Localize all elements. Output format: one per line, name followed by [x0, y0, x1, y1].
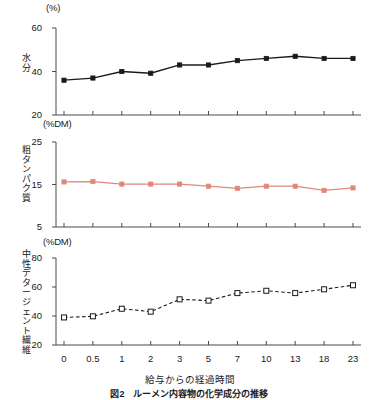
y-tick-label: 40: [20, 310, 42, 321]
data-point-marker: [149, 71, 153, 75]
x-tick-label: 13: [290, 353, 301, 364]
data-point-marker: [120, 69, 124, 73]
data-point-marker: [62, 180, 66, 184]
x-tick-label: 23: [348, 353, 359, 364]
chart-panel-moisture: (%) 水分: [0, 8, 379, 120]
data-point-marker: [148, 309, 153, 314]
data-point-marker: [351, 186, 355, 190]
data-point-marker: [235, 291, 240, 296]
data-point-marker: [322, 188, 326, 192]
x-tick-label: 0: [61, 353, 66, 364]
data-point-marker: [91, 76, 95, 80]
data-point-marker: [206, 298, 211, 303]
plot-area-crude-protein: [0, 122, 379, 240]
data-point-marker: [235, 59, 239, 63]
y-tick-label: 80: [20, 252, 42, 263]
data-point-marker: [62, 315, 67, 320]
x-tick-label: 2: [148, 353, 153, 364]
data-point-marker: [178, 63, 182, 67]
data-point-marker: [62, 78, 66, 82]
y-tick-label: 60: [20, 22, 42, 33]
data-point-marker: [351, 283, 356, 288]
data-point-marker: [177, 297, 182, 302]
x-tick-label: 3: [177, 353, 182, 364]
x-tick-label: 5: [206, 353, 211, 364]
data-point-marker: [119, 306, 124, 311]
data-point-marker: [264, 184, 268, 188]
x-tick-label: 7: [235, 353, 240, 364]
y-tick-label: 60: [20, 281, 42, 292]
y-tick-label: 5: [20, 221, 42, 232]
y-tick-label: 20: [20, 339, 42, 350]
data-point-marker: [149, 182, 153, 186]
plot-area-ndf: [0, 240, 379, 360]
data-point-marker: [206, 63, 210, 67]
y-tick-label: 25: [20, 136, 42, 147]
data-point-marker: [293, 184, 297, 188]
x-axis-title: 給与からの経過時間: [0, 372, 379, 386]
data-point-marker: [90, 314, 95, 319]
chart-panel-crude-protein: (%DM) 粗タンパク質: [0, 122, 379, 240]
data-point-marker: [264, 56, 268, 60]
figure-caption: 図2 ルーメン内容物の化学成分の推移: [0, 387, 379, 400]
data-point-marker: [351, 56, 355, 60]
y-tick-label: 20: [20, 109, 42, 120]
data-point-marker: [91, 179, 95, 183]
data-point-marker: [235, 186, 239, 190]
x-tick-label: 1: [119, 353, 124, 364]
x-tick-label: 10: [261, 353, 272, 364]
data-point-marker: [206, 184, 210, 188]
y-tick-label: 40: [20, 66, 42, 77]
data-point-marker: [322, 56, 326, 60]
x-tick-label: 0.5: [86, 353, 99, 364]
data-point-marker: [293, 54, 297, 58]
series-line: [64, 56, 353, 80]
data-point-marker: [264, 288, 269, 293]
chart-panel-ndf: (%DM) 中性デタージェント繊維: [0, 240, 379, 360]
data-point-marker: [120, 182, 124, 186]
data-point-marker: [178, 182, 182, 186]
x-tick-label: 18: [319, 353, 330, 364]
data-point-marker: [293, 291, 298, 296]
y-tick-label: 15: [20, 179, 42, 190]
data-point-marker: [322, 287, 327, 292]
plot-area-moisture: [0, 8, 379, 120]
